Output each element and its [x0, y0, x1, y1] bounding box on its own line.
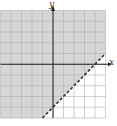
y-axis-label: y — [49, 0, 54, 9]
coordinate-plane — [0, 0, 117, 126]
x-axis-label: x — [109, 58, 114, 67]
